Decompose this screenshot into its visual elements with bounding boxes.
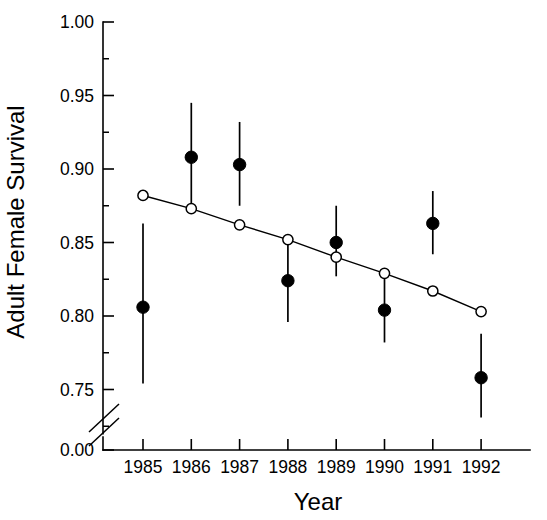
fitted-point-marker — [186, 204, 196, 214]
fitted-point-marker — [331, 252, 341, 262]
x-tick-label: 1991 — [413, 457, 452, 477]
x-tick-label: 1989 — [317, 457, 356, 477]
x-tick-label: 1992 — [462, 457, 501, 477]
observed-point-marker — [378, 304, 390, 316]
fitted-point-marker — [428, 286, 438, 296]
y-axis-title: Adult Female Survival — [2, 105, 29, 338]
observed-point-marker — [330, 236, 342, 248]
observed-point-marker — [137, 301, 149, 313]
fitted-point-marker — [235, 220, 245, 230]
y-tick-label: 1.00 — [60, 12, 94, 32]
fitted-point-marker — [283, 234, 293, 244]
y-tick-label: 0.00 — [60, 440, 94, 460]
fitted-point-marker — [476, 306, 486, 316]
x-tick-label: 1985 — [124, 457, 163, 477]
observed-point-marker — [233, 158, 245, 170]
fitted-point-marker — [379, 268, 389, 278]
observed-point-marker — [185, 151, 197, 163]
x-tick-label: 1987 — [220, 457, 259, 477]
survival-year-scatter-chart: 0.000.750.800.850.900.951.00 19851986198… — [0, 0, 547, 520]
y-tick-label: 0.90 — [60, 159, 94, 179]
x-tick-label: 1986 — [172, 457, 211, 477]
y-tick-label: 0.95 — [60, 86, 94, 106]
y-tick-label: 0.80 — [60, 306, 94, 326]
chart-container: 0.000.750.800.850.900.951.00 19851986198… — [0, 0, 547, 520]
y-tick-label: 0.85 — [60, 233, 94, 253]
x-axis-title: Year — [294, 488, 343, 515]
x-tick-label: 1988 — [268, 457, 307, 477]
y-tick-label: 0.75 — [60, 380, 94, 400]
observed-point-marker — [427, 217, 439, 229]
observed-point-marker — [475, 372, 487, 384]
x-tick-label: 1990 — [365, 457, 404, 477]
fitted-point-marker — [138, 190, 148, 200]
observed-point-marker — [282, 275, 294, 287]
